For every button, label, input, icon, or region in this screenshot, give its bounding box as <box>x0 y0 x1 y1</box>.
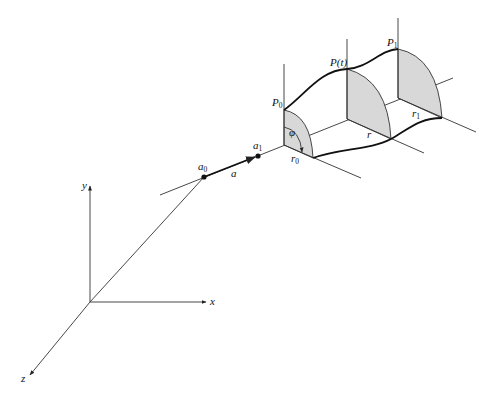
a1-label: a1 <box>253 139 263 153</box>
position-vector-a0 <box>90 177 204 302</box>
phi-label: φ <box>289 126 295 138</box>
pt-label: P(t) <box>329 56 347 69</box>
cross-section-p1 <box>398 18 476 132</box>
direction-vector-a <box>204 157 255 177</box>
point-a1 <box>255 153 260 158</box>
y-axis-label: y <box>81 179 87 191</box>
r-label: r <box>367 128 372 140</box>
r0-label: r0 <box>291 152 299 166</box>
r1-label: r1 <box>412 107 420 121</box>
point-a0 <box>201 174 206 179</box>
x-axis-label: x <box>209 295 215 307</box>
direction-label: a <box>231 167 237 179</box>
p1-label: P1 <box>386 36 398 50</box>
a0-label: a0 <box>198 160 208 174</box>
world-axes <box>30 177 206 375</box>
generalized-cylinder-diagram: y x z a0 a1 a P0 φ r0 P(t) r P1 r1 <box>0 0 499 396</box>
z-axis <box>30 302 90 375</box>
p0-label: P0 <box>271 96 283 110</box>
z-axis-label: z <box>20 372 26 384</box>
